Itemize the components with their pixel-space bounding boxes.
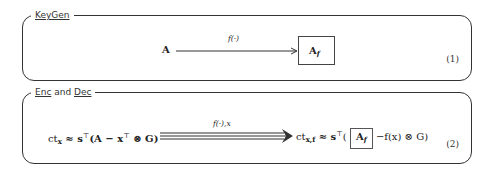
arrow-label-f: f(·) [228, 34, 239, 43]
subscript-f: f [317, 49, 320, 58]
keygen-title: KeyGen [31, 8, 74, 22]
ciphertext-xf-equation: ctx,f ≈ s⊤( Af −f(x) ⊗ G) [296, 128, 428, 149]
equation-number-2: (2) [446, 139, 459, 149]
matrix-a: A [162, 44, 170, 56]
equation-number-1: (1) [446, 54, 459, 64]
enc-dec-title: Enc and Dec [31, 85, 95, 99]
ciphertext-x-equation: ctx ≈ s⊤(A − x⊤ ⊗ G) [48, 130, 158, 148]
af-inline-box: Af [350, 128, 373, 149]
double-arrow-right-icon [160, 129, 294, 143]
arrow-label-fx: f(·),x [213, 119, 231, 128]
af-box: Af [298, 36, 335, 65]
matrix-af: A [309, 45, 317, 56]
arrow-right-icon [176, 46, 300, 56]
